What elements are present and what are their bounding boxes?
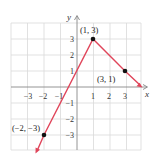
- y-tick-labels: 3 2 1 −1 −2 −3: [65, 35, 74, 140]
- y-tick: 1: [70, 67, 74, 76]
- data-point: [123, 69, 128, 74]
- y-tick: −3: [65, 131, 74, 140]
- x-tick: −2: [39, 92, 48, 101]
- point-label: (−2, −3): [12, 123, 40, 133]
- point-label: (3, 1): [97, 74, 116, 84]
- data-point: [42, 133, 47, 138]
- x-tick: 1: [91, 92, 95, 101]
- y-axis-label: y: [66, 12, 71, 22]
- x-tick: 3: [123, 92, 127, 101]
- graph: x y −3 −2 −1 1 2 3 3 2 1 −1 −2 −3 (1, 3)…: [0, 0, 156, 161]
- x-tick: 2: [107, 92, 111, 101]
- x-tick: −3: [24, 92, 33, 101]
- data-point: [91, 37, 96, 42]
- y-tick: 2: [70, 51, 74, 60]
- y-tick: −2: [65, 115, 74, 124]
- y-tick: −1: [65, 99, 74, 108]
- x-axis-label: x: [144, 89, 149, 99]
- x-tick-labels: −3 −2 −1 1 2 3: [24, 92, 127, 101]
- y-tick: 3: [70, 35, 74, 44]
- point-label: (1, 3): [80, 25, 99, 35]
